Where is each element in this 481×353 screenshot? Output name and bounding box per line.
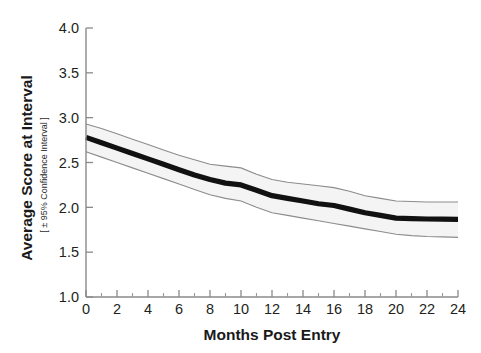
y-tick-label: 4.0: [59, 20, 79, 36]
y-tick-label: 3.0: [59, 110, 79, 126]
y-tick-label: 2.5: [59, 155, 79, 171]
x-axis-title: Months Post Entry: [204, 326, 341, 343]
x-tick-label: 12: [264, 301, 280, 317]
x-tick-label: 10: [233, 301, 249, 317]
y-tick-label: 2.0: [59, 200, 79, 216]
y-tick-label: 1.5: [59, 244, 79, 260]
y-tick-label: 1.0: [59, 289, 79, 305]
x-tick-label: 18: [357, 301, 373, 317]
x-tick-label: 24: [450, 301, 466, 317]
y-axis-title: Average Score at Interval: [18, 75, 35, 261]
line-chart-with-confidence-band: 1.01.52.02.53.03.54.0 024681012141618202…: [0, 0, 481, 353]
x-tick-label: 6: [175, 301, 183, 317]
x-tick-label: 14: [295, 301, 311, 317]
x-tick-label: 22: [419, 301, 435, 317]
y-tick-label: 3.5: [59, 65, 79, 81]
y-axis-subtitle: [ ± 95% Confidence Interval ]: [39, 117, 49, 233]
x-tick-label: 16: [326, 301, 342, 317]
x-tick-label: 0: [82, 301, 90, 317]
chart-container: 1.01.52.02.53.03.54.0 024681012141618202…: [0, 0, 481, 353]
x-tick-label: 2: [113, 301, 121, 317]
x-tick-label: 4: [144, 301, 152, 317]
x-tick-label: 8: [206, 301, 214, 317]
x-tick-label: 20: [388, 301, 404, 317]
